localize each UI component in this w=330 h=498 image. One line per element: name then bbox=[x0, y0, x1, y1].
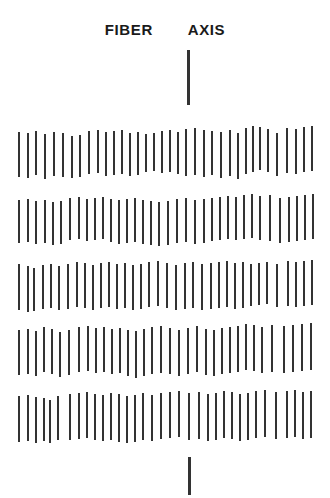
fiber-axis-figure: FIBER AXIS bbox=[0, 0, 330, 498]
figure-canvas bbox=[0, 0, 330, 498]
